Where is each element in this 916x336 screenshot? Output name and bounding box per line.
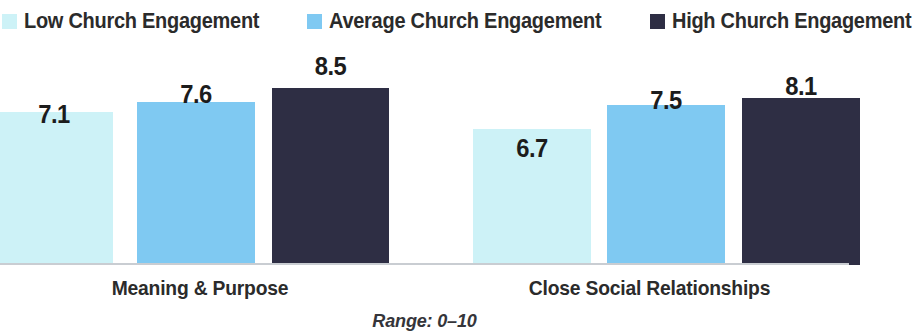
bar-slot: 7.5 <box>607 105 725 265</box>
bar-slot: 8.5 <box>272 88 389 265</box>
legend-item-label: Low Church Engagement <box>24 9 259 34</box>
bar-value-label: 8.1 <box>745 72 857 101</box>
bar-slot: 7.1 <box>0 112 113 265</box>
square-swatch-icon <box>650 14 665 29</box>
axis-baseline <box>0 263 849 265</box>
legend-item-low-church-engagement: Low Church Engagement <box>2 4 277 38</box>
bar-value-label: 8.5 <box>275 52 386 81</box>
bar-slot: 8.1 <box>742 98 860 265</box>
category-label-close-social-relationships: Close Social Relationships <box>462 276 837 300</box>
bar-value-label: 7.1 <box>0 100 110 129</box>
plot-area: 7.1 7.6 8.5 6.7 7.5 8.1 <box>0 45 849 265</box>
bar-value-label: 7.5 <box>610 86 722 115</box>
bar-slot: 6.7 <box>473 129 591 265</box>
square-swatch-icon <box>2 14 17 29</box>
bar-slot: 7.6 <box>137 102 255 265</box>
bar-average-close-social-relationships <box>607 105 725 265</box>
square-swatch-icon <box>307 14 322 29</box>
bar-high-close-social-relationships <box>742 98 860 265</box>
bar-high-meaning-purpose <box>272 88 389 265</box>
category-label-meaning-purpose: Meaning & Purpose <box>12 276 388 300</box>
chart-legend: Low Church Engagement Average Church Eng… <box>0 4 849 38</box>
bar-value-label: 7.6 <box>140 80 252 109</box>
legend-item-label: Average Church Engagement <box>329 9 601 34</box>
legend-item-high-church-engagement: High Church Engagement <box>650 4 916 38</box>
legend-item-label: High Church Engagement <box>672 9 911 34</box>
chart-footnote: Range: 0–10 <box>21 310 828 332</box>
legend-item-average-church-engagement: Average Church Engagement <box>307 4 622 38</box>
bar-low-meaning-purpose <box>0 112 113 265</box>
bar-average-meaning-purpose <box>137 102 255 265</box>
bar-value-label: 6.7 <box>476 134 588 163</box>
